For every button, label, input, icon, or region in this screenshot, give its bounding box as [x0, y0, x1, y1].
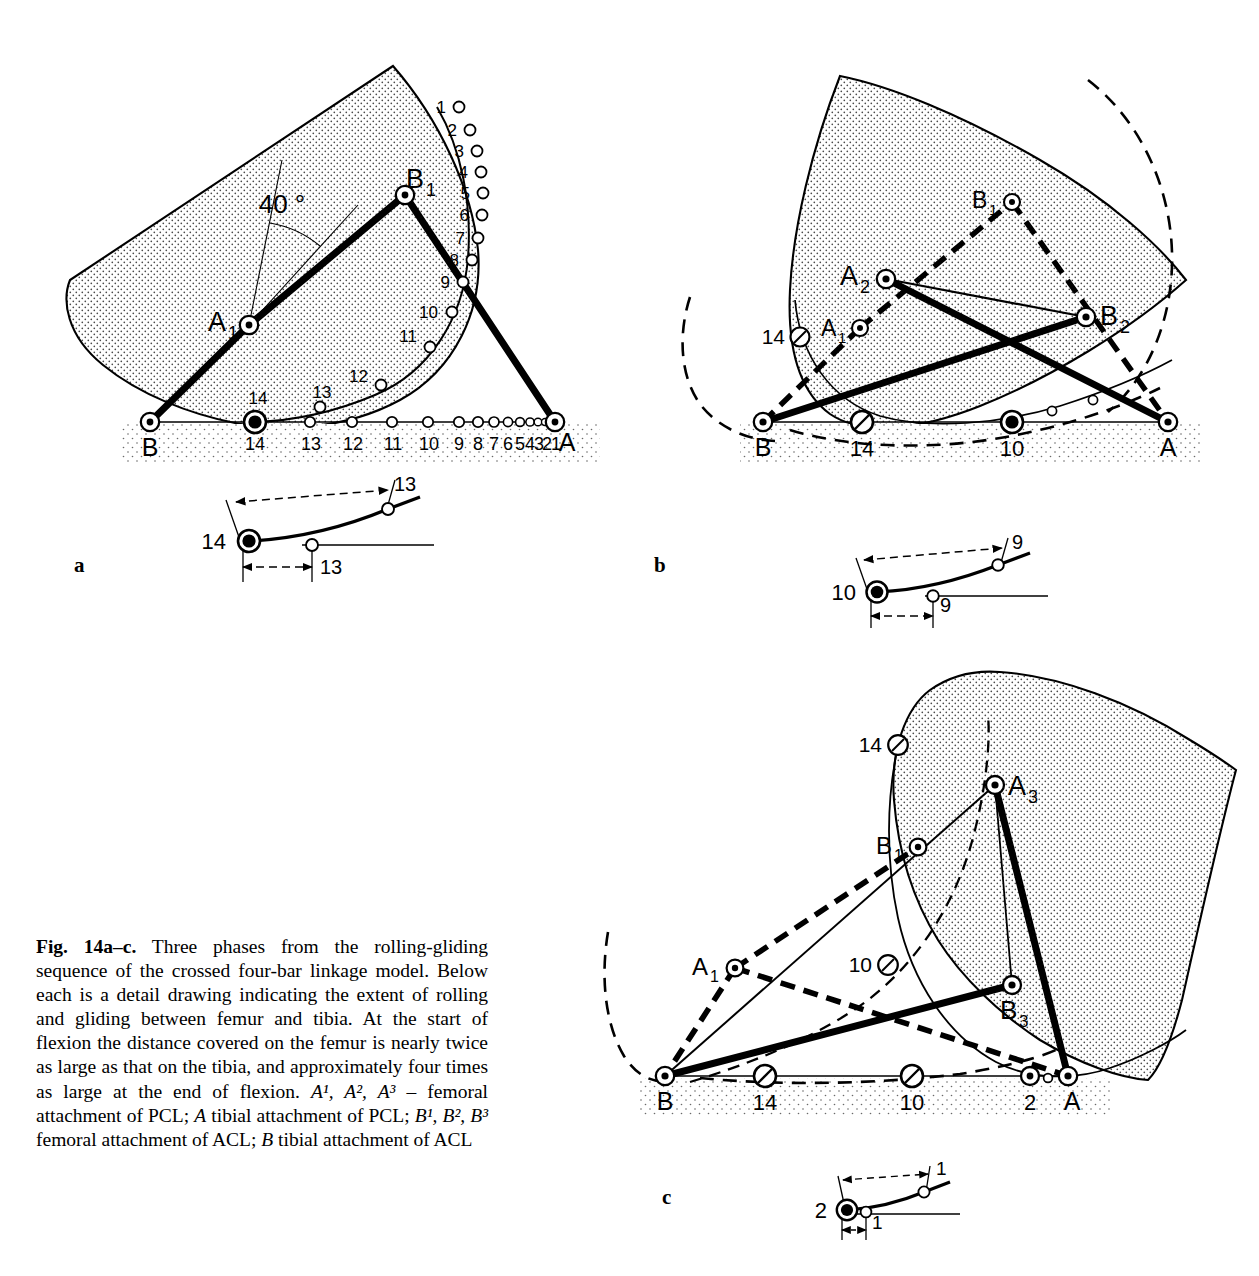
panel-a: 40 ° 1 2 3 4 5 6 7 8 9 10 [67, 66, 600, 582]
svg-text:1: 1 [437, 98, 446, 117]
svg-text:12: 12 [343, 434, 363, 454]
pivot-B-a [141, 413, 159, 431]
label-A-b: A [1160, 433, 1177, 461]
svg-text:A: A [1008, 771, 1026, 801]
svg-text:11: 11 [384, 434, 403, 454]
svg-text:5: 5 [461, 184, 470, 203]
svg-text:A: A [208, 307, 226, 337]
label-B-a: B [142, 433, 159, 461]
marker-14-upper-c [888, 735, 908, 755]
svg-text:2: 2 [860, 277, 870, 297]
marker-10-upper-label-c: 10 [849, 953, 872, 976]
detail-drawing-b: 9 9 10 [832, 531, 1048, 628]
svg-text:10: 10 [419, 303, 438, 322]
label-A-c: A [1064, 1087, 1081, 1115]
marker-2-base-label-c: 2 [1024, 1090, 1036, 1115]
pivot-B1-c [910, 839, 927, 856]
marker-14-base-label-c: 14 [753, 1090, 777, 1115]
detail-contact-label-b: 10 [832, 580, 856, 605]
pivot-B2-b [1077, 308, 1095, 326]
svg-text:B: B [1000, 995, 1017, 1025]
marker-2-base-c [1021, 1067, 1039, 1085]
panel-label-b: b [654, 553, 666, 578]
marker-10-base-label-c: 10 [900, 1090, 924, 1115]
svg-text:5: 5 [515, 434, 525, 454]
svg-text:8: 8 [473, 434, 483, 454]
pivot-A1-c [727, 960, 744, 977]
svg-text:1: 1 [228, 323, 238, 343]
panel-label-c: c [662, 1185, 671, 1210]
svg-text:4: 4 [459, 163, 468, 182]
svg-text:12: 12 [349, 367, 368, 386]
label-B-b: B [755, 433, 772, 461]
svg-text:6: 6 [503, 434, 513, 454]
marker-14-base-b [851, 411, 873, 433]
svg-text:9: 9 [441, 273, 450, 292]
pivot-A-b [1159, 413, 1177, 431]
svg-text:14: 14 [245, 434, 265, 454]
detail-drawing-a: 13 13 14 [202, 473, 434, 582]
svg-text:2: 2 [1120, 317, 1130, 337]
pivot-A1-b [852, 320, 868, 336]
dashed-arc-left-c [605, 932, 670, 1081]
marker-14-base-c [754, 1065, 776, 1087]
svg-text:1: 1 [872, 1212, 883, 1233]
svg-text:1: 1 [894, 847, 903, 864]
svg-text:1: 1 [838, 329, 846, 346]
svg-text:8: 8 [450, 251, 459, 270]
svg-text:A: A [821, 315, 837, 341]
svg-text:A: A [692, 953, 708, 980]
svg-text:9: 9 [454, 434, 464, 454]
svg-text:7: 7 [489, 434, 499, 454]
svg-text:10: 10 [419, 434, 439, 454]
marker-14-upper-label-c: 14 [859, 733, 883, 756]
pivot-A3-c [986, 776, 1004, 794]
angle-label-a: 40 ° [259, 189, 306, 219]
marker-14-upper-label-b: 14 [762, 325, 786, 348]
femur-outline-a [67, 66, 479, 428]
svg-text:9: 9 [1012, 531, 1023, 553]
panel-c: 14 10 [605, 672, 1236, 1240]
marker-10-upper-c [878, 955, 898, 975]
svg-text:B: B [972, 187, 987, 213]
svg-text:A: A [840, 261, 858, 291]
svg-text:1: 1 [426, 180, 436, 200]
svg-text:13: 13 [320, 556, 342, 578]
svg-text:13: 13 [313, 383, 332, 402]
svg-text:13: 13 [301, 434, 321, 454]
detail-contact-label-c: 2 [815, 1198, 827, 1223]
svg-text:3: 3 [1028, 787, 1038, 807]
pivot-A2-b [877, 270, 895, 288]
tibia-plateau-b [740, 424, 1200, 462]
svg-text:6: 6 [460, 206, 469, 225]
pivot-B1-b [1004, 194, 1020, 210]
marker-10-base-label-b: 10 [1000, 436, 1024, 461]
label-B-c: B [657, 1087, 674, 1115]
detail-contact-label-a: 14 [202, 529, 226, 554]
svg-text:3: 3 [455, 142, 464, 161]
svg-text:1: 1 [989, 201, 997, 218]
svg-text:1: 1 [936, 1158, 947, 1179]
marker-14-base-label-b: 14 [850, 436, 874, 461]
pivot-A1-a [240, 316, 258, 334]
figure-caption: Fig. 14a–c. Three phases from the rollin… [36, 935, 488, 1152]
svg-text:B: B [876, 832, 892, 859]
svg-text:9: 9 [940, 594, 951, 616]
svg-text:11: 11 [399, 327, 417, 346]
svg-text:13: 13 [394, 473, 416, 495]
svg-text:14: 14 [249, 389, 268, 408]
pivot-A-c [1059, 1067, 1077, 1085]
detail-drawing-c: 1 1 2 [815, 1158, 960, 1240]
marker-14-upper-b [791, 328, 810, 347]
svg-text:7: 7 [456, 229, 465, 248]
marker-10-base-b [1001, 411, 1023, 433]
svg-text:B: B [1100, 301, 1118, 331]
femur-body-b [790, 76, 1186, 428]
panel-label-a: a [74, 553, 85, 578]
label-A1-c: A 1 [692, 953, 719, 985]
marker-10-base-c [901, 1065, 923, 1087]
tibia-plateau-c [640, 1078, 1110, 1115]
svg-text:3: 3 [1019, 1012, 1028, 1031]
label-A-a: A [559, 428, 576, 456]
svg-text:B: B [406, 164, 424, 194]
